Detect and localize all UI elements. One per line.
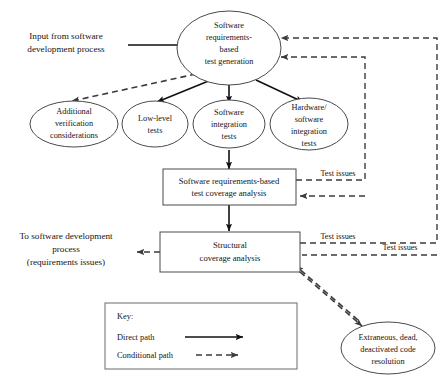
io-output-label-line-2: process: [52, 244, 80, 254]
edge-structural-coverage-to-extraneous-code: [300, 272, 362, 326]
node-extraneous-code-resolution-line-2: deactivated code: [360, 345, 416, 354]
node-extraneous-code-resolution-line-1: Extraneous, dead,: [358, 333, 417, 342]
flowchart-diagram: Software requirements- based test genera…: [0, 0, 448, 386]
edge-test-generation-to-low-level-tests: [157, 80, 211, 102]
node-hardware-software-integration-tests-line-1: Hardware/: [291, 103, 327, 112]
node-additional-verification-line-3: considerations: [50, 131, 98, 140]
node-additional-verification-line-2: verification: [55, 119, 94, 128]
node-additional-verification-line-1: Additional: [56, 107, 92, 116]
node-low-level-tests-line-2: tests: [148, 126, 163, 135]
node-hardware-software-integration-tests-line-2: software: [295, 115, 324, 124]
io-output-label-line-3: (requirements issues): [27, 257, 105, 267]
node-structural-coverage-analysis-line-2: coverage analysis: [200, 253, 262, 263]
node-software-integration-tests-line-1: Software: [214, 108, 244, 117]
io-output-label-line-1: To software development: [19, 231, 113, 241]
node-hardware-software-integration-tests-line-3: integration: [291, 127, 328, 136]
node-software-integration-tests-line-2: integration: [211, 120, 248, 129]
node-hardware-software-integration-tests-line-4: tests: [302, 139, 317, 148]
node-structural-coverage-analysis: [160, 232, 300, 272]
node-test-generation-line-3: based: [220, 45, 240, 54]
edge-label-test-issues-3: Test issues: [382, 243, 417, 252]
node-low-level-tests-line-1: Low-level: [138, 114, 173, 123]
node-test-generation-line-4: test generation: [205, 57, 254, 66]
node-structural-coverage-analysis-line-1: Structural: [213, 240, 248, 250]
node-test-generation-line-1: Software: [214, 21, 244, 30]
node-low-level-tests: [122, 101, 188, 147]
node-software-integration-tests-line-3: tests: [222, 132, 237, 141]
node-test-generation-line-2: requirements-: [206, 33, 252, 42]
legend-title: Key:: [117, 312, 133, 321]
legend-conditional-path-label: Conditional path: [117, 351, 174, 360]
node-requirements-coverage-analysis: [163, 169, 296, 205]
io-input-label-line-1: Input from software: [29, 31, 102, 41]
io-input-label-line-2: development process: [27, 44, 105, 54]
edge-test-generation-to-additional-verification: [72, 74, 196, 101]
edge-label-test-issues-2: Test issues: [320, 232, 355, 241]
edge-label-test-issues-1: Test issues: [320, 169, 355, 178]
edge-extraneous-code-to-structural-coverage: [296, 266, 358, 320]
edge-test-generation-to-hardware-software-integration-tests: [256, 80, 303, 102]
legend-direct-path-label: Direct path: [117, 333, 155, 342]
node-requirements-coverage-analysis-line-1: Software requirements-based: [179, 176, 280, 186]
node-requirements-coverage-analysis-line-2: test coverage analysis: [192, 188, 268, 198]
node-extraneous-code-resolution-line-3: resolution: [371, 357, 405, 366]
flowchart-canvas: Software requirements- based test genera…: [0, 0, 448, 386]
